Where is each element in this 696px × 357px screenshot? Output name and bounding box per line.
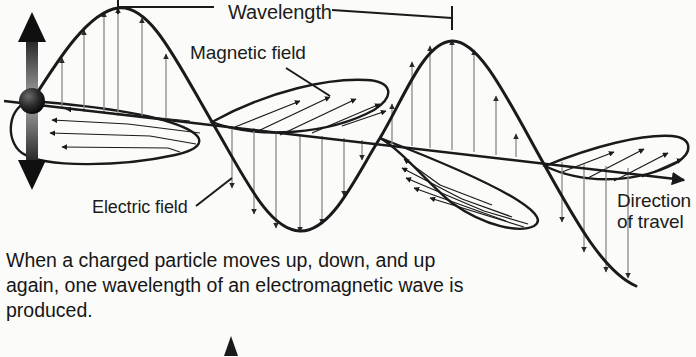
- figure-caption: When a charged particle moves up, down, …: [6, 248, 476, 323]
- electric-field-label: Electric field: [92, 197, 188, 218]
- charged-particle: [19, 88, 45, 114]
- direction-of-travel-label: Directionof travel: [617, 190, 691, 232]
- electric-field-leader-line: [196, 178, 232, 206]
- wavelength-label: Wavelength: [228, 1, 332, 24]
- figure-canvas: Wavelength Magnetic field Electric field…: [0, 0, 696, 357]
- magnetic-field-label: Magnetic field: [190, 42, 306, 64]
- magnetic-field-lobe-2: [212, 80, 388, 135]
- magnetic-field-lobe-4: [545, 136, 688, 181]
- magnetic-hatch-group-1: [50, 109, 168, 148]
- electric-field-wave-curve: [32, 8, 636, 286]
- direction-line-2: of travel: [617, 211, 684, 232]
- electric-field-arrows: [62, 8, 628, 278]
- direction-line-1: Direction: [617, 190, 691, 211]
- bottom-page-arrow-icon: [224, 336, 238, 356]
- magnetic-field-lobe-3: [380, 138, 538, 229]
